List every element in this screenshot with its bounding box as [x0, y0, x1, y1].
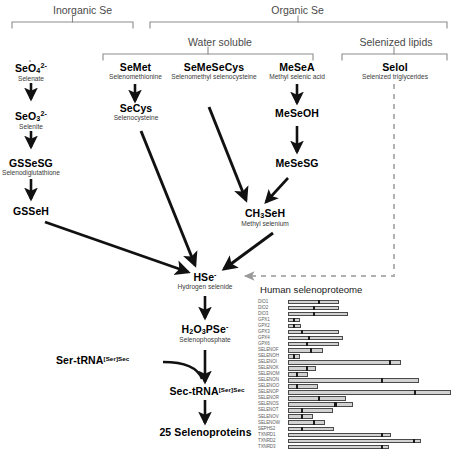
selenoprotein-bar-marker — [413, 439, 415, 444]
selenoprotein-bar — [288, 336, 343, 341]
selenoprotein-bar-marker — [310, 348, 312, 353]
selenoprotein-bar — [288, 384, 318, 389]
node-h2o3pse: H2O3PSe- Selenophosphate — [150, 323, 260, 343]
selenoprotein-bar — [288, 445, 389, 450]
selenoprotein-bar — [288, 360, 401, 365]
node-hse: HSe- Hydrogen selenide — [148, 271, 262, 290]
node-sec-trna: Sec-tRNA[Ser]Sec — [148, 386, 266, 397]
selenoprotein-bar-marker — [301, 408, 303, 413]
node-ch3seh-sublabel: Methyl selenium — [210, 220, 320, 227]
selenoprotein-label: SELENOI — [258, 359, 277, 364]
node-seo3-name: SeO32- — [0, 110, 62, 123]
node-gssesg-sublabel: Selenodiglutathione — [0, 169, 72, 176]
node-sec-trna-name: Sec-tRNA[Ser]Sec — [148, 386, 266, 397]
selenoprotein-bar-marker — [313, 306, 315, 311]
selenoprotein-bar — [288, 366, 316, 371]
node-ch3seh: CH3SeH Methyl selenium — [210, 208, 320, 227]
node-seo3-sublabel: Selenite — [0, 123, 62, 130]
node-seo4-name: SeO42- — [0, 62, 62, 75]
selenoprotein-label: SELENOV — [258, 414, 279, 419]
node-semesecys-name: SeMeSeCys — [168, 62, 260, 73]
selenoprotein-bar-marker — [301, 414, 303, 419]
selenoprotein-bar-marker — [313, 420, 315, 425]
selenoprotein-bar-marker — [318, 396, 320, 401]
node-ser-trna-name: Ser-tRNA[Ser]Sec — [56, 355, 166, 366]
pathway-diagram: Inorganic Se Organic Se Water soluble Se… — [0, 0, 456, 468]
selenoprotein-bar — [288, 342, 339, 347]
selenoprotein-label: DIO1 — [258, 299, 268, 304]
node-seo4-sublabel: Selenate — [0, 75, 62, 82]
selenoprotein-bar — [288, 300, 339, 305]
selenoprotein-label: DIO3 — [258, 311, 268, 316]
node-secys-name: SeCys — [92, 103, 180, 114]
selenoproteome-title: Human selenoproteome — [260, 284, 362, 295]
selenoprotein-bar-marker — [381, 445, 383, 450]
selenoprotein-bar-marker — [301, 427, 303, 432]
selenoprotein-label: DIO2 — [258, 305, 268, 310]
node-semesecys-sublabel: Selenomethyl selenocysteine — [168, 73, 260, 80]
selenoprotein-label: TXNRD3 — [258, 444, 275, 449]
node-mesea-sublabel: Methyl selenic acid — [251, 73, 343, 80]
node-gsseh: GSSeH — [0, 206, 66, 217]
node-mesesg: MeSeSG — [258, 158, 336, 169]
selenoprotein-label: SELENOO — [258, 383, 279, 388]
selenoprotein-bar-marker — [334, 402, 336, 407]
selenoprotein-bar — [288, 439, 421, 444]
selenoprotein-label: SELENOM — [258, 371, 279, 376]
selenoprotein-bar-marker — [306, 342, 308, 347]
selenoprotein-label: SELENOS — [258, 401, 279, 406]
selenoprotein-bar — [288, 433, 391, 438]
selenoprotein-bar — [288, 420, 325, 425]
selenoprotein-bar-marker — [293, 324, 295, 329]
selenoprotein-label: SELENOT — [258, 407, 278, 412]
selenoprotein-bar-marker — [296, 384, 298, 389]
node-secys-sublabel: Selenocysteine — [92, 114, 180, 121]
selenoprotein-bar-marker — [306, 366, 308, 371]
selenoprotein-label: SELENOK — [258, 365, 279, 370]
node-h2o3pse-name: H2O3PSe- — [150, 323, 260, 336]
selenoprotein-bar — [288, 390, 451, 395]
node-seo3: SeO32- Selenite — [0, 110, 62, 130]
selenoproteome-chart: DIO1DIO2DIO3GPX1GPX2GPX3GPX4GPX6SELENOFS… — [256, 299, 456, 450]
selenoprotein-label: TXNRD2 — [258, 438, 275, 443]
selenoprotein-label: SELENOR — [258, 395, 279, 400]
node-hse-name: HSe- — [148, 271, 262, 283]
selenoprotein-label: GPX1 — [258, 317, 270, 322]
selenoprotein-bar-marker — [293, 318, 295, 323]
node-gssesg: GSSeSG Selenodiglutathione — [0, 158, 72, 176]
selenoprotein-bar-marker — [293, 354, 295, 359]
node-semesecys: SeMeSeCys Selenomethyl selenocysteine — [168, 62, 260, 80]
node-meseoh: MeSeOH — [258, 108, 336, 119]
selenoprotein-bar-marker — [301, 330, 303, 335]
selenoprotein-label: SELENOF — [258, 347, 278, 352]
selenoprotein-bar-marker — [381, 378, 383, 383]
selenoprotein-bar-marker — [381, 433, 383, 438]
node-ser-trna: Ser-tRNA[Ser]Sec — [56, 355, 166, 366]
selenoprotein-label: SELENOP — [258, 389, 279, 394]
selenoprotein-bar — [288, 408, 333, 413]
selenoprotein-bar-marker — [296, 372, 298, 377]
node-selol-sublabel: Selenized triglycerides — [340, 73, 450, 80]
selenoprotein-bar-marker — [414, 390, 416, 395]
node-selol-name: Selol — [340, 62, 450, 73]
node-gssesg-name: GSSeSG — [0, 158, 72, 169]
selenoprotein-label: GPX3 — [258, 329, 270, 334]
node-gsseh-name: GSSeH — [0, 206, 66, 217]
node-hse-sublabel: Hydrogen selenide — [148, 283, 262, 290]
selenoprotein-bar — [288, 378, 419, 383]
selenoprotein-bar — [288, 402, 353, 407]
node-mesesg-name: MeSeSG — [258, 158, 336, 169]
selenoprotein-label: GPX6 — [258, 341, 270, 346]
node-mesea: MeSeA Methyl selenic acid — [251, 62, 343, 80]
node-h2o3pse-sublabel: Selenophosphate — [150, 336, 260, 343]
selenoprotein-bar — [288, 427, 334, 432]
selenoprotein-bar-marker — [318, 300, 320, 305]
node-meseoh-name: MeSeOH — [258, 108, 336, 119]
selenoprotein-label: TXNRD1 — [258, 432, 275, 437]
selenoprotein-bar-marker — [389, 360, 391, 365]
selenoprotein-label: SELENOH — [258, 353, 279, 358]
selenoprotein-row: TXNRD3 — [256, 444, 456, 450]
selenoprotein-label: GPX2 — [258, 323, 270, 328]
selenoprotein-label: SELENOW — [258, 420, 280, 425]
selenoprotein-bar-marker — [308, 336, 310, 341]
